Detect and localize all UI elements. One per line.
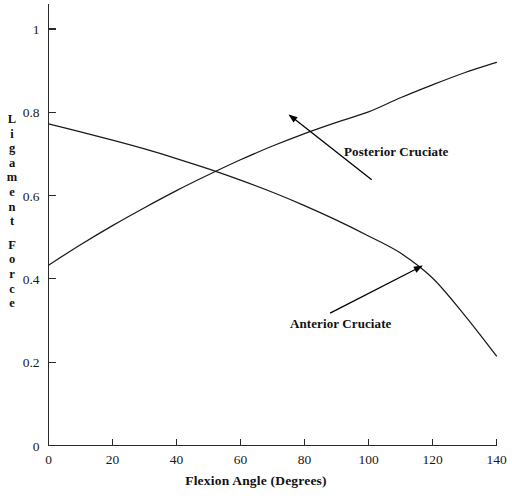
x-tick-label: 140 [486,452,507,467]
chart-plot-svg: 00.20.40.60.81 020406080100120140 [0,0,512,498]
chart-container: 00.20.40.60.81 020406080100120140 Ligame… [0,0,512,498]
y-tick-label: 0 [33,439,40,454]
y-axis-title-char: e [4,296,20,311]
y-axis-title-gap [4,229,20,238]
annotation-posterior-cruciate: Posterior Cruciate [344,144,448,160]
x-tick-label: 120 [422,452,443,467]
x-tick-label: 0 [45,452,52,467]
x-tick-label: 40 [170,452,184,467]
y-axis-ticks: 00.20.40.60.81 [23,22,56,454]
y-axis-title-char: e [4,185,20,200]
y-axis-title-char: r [4,267,20,282]
y-axis-title-char: a [4,156,20,171]
y-axis-title: LigamentForce [4,112,20,311]
annotation-anterior-cruciate: Anterior Cruciate [290,316,391,332]
y-tick-label: 1 [33,22,40,37]
annotation-leader-line [330,266,421,313]
x-tick-label: 100 [358,452,379,467]
y-axis-title-char: n [4,200,20,215]
y-axis-title-char: m [4,170,20,185]
y-axis-title-char: o [4,252,20,267]
x-axis-title: Flexion Angle (Degrees) [0,473,512,489]
y-axis-title-char: i [4,127,20,142]
y-axis-title-char: F [4,238,20,253]
y-axis-title-char: c [4,282,20,297]
series-line-posterior-cruciate [49,62,497,265]
y-tick-label: 0.8 [23,105,40,120]
x-tick-label: 60 [234,452,248,467]
x-axis-ticks: 020406080100120140 [45,439,507,467]
series-group [49,62,497,356]
y-axis-title-char: t [4,214,20,229]
y-tick-label: 0.6 [23,189,40,204]
annotation-arrow-head [289,114,298,122]
axes-group [49,4,497,446]
y-tick-label: 0.2 [23,355,40,370]
y-axis-title-char: L [4,112,20,127]
y-axis-title-char: g [4,141,20,156]
y-tick-label: 0.4 [23,272,40,287]
x-tick-label: 80 [298,452,312,467]
annotation-arrow-head [413,266,423,273]
x-tick-label: 20 [106,452,120,467]
